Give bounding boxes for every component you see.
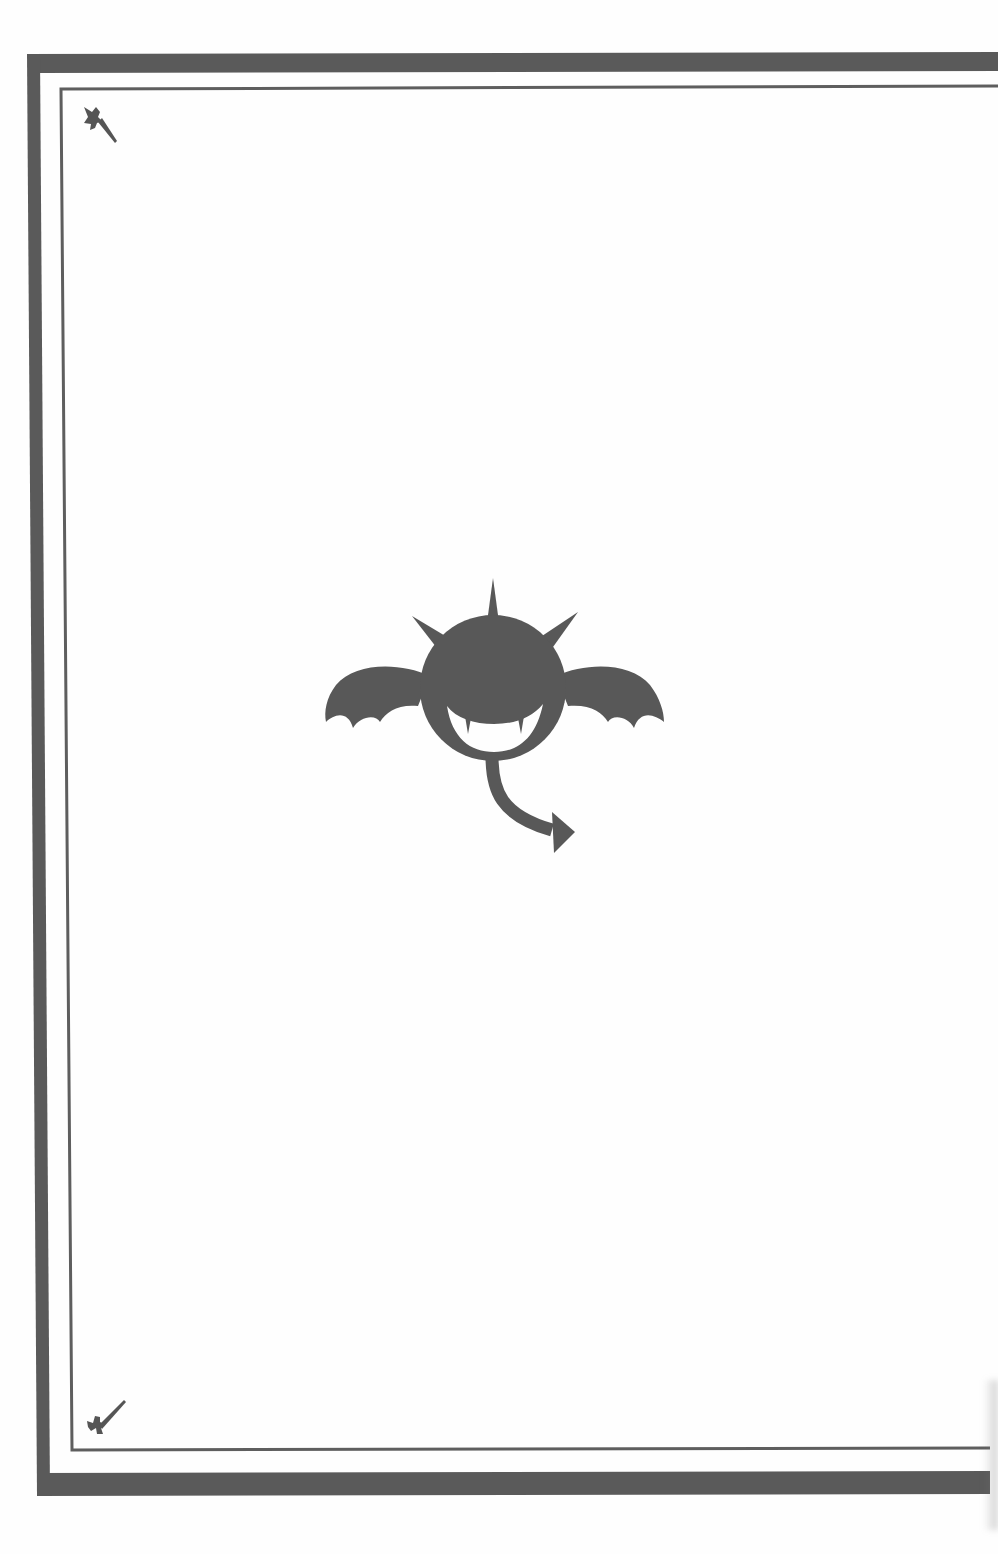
- inner-border: [61, 86, 998, 1450]
- emblem-tail: [492, 756, 552, 830]
- book-page: [0, 0, 998, 1554]
- crossed-dagger-icon: [87, 1400, 126, 1434]
- crossed-dagger-icon: [84, 107, 117, 143]
- outer-border: [27, 52, 998, 1496]
- page-frame: [0, 0, 998, 1554]
- page-edge-shadow: [984, 1380, 998, 1530]
- tail-arrowhead-icon: [552, 812, 575, 853]
